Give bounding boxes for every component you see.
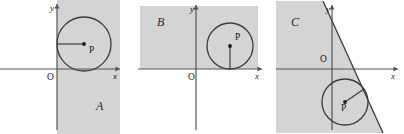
shaded-region-a [57,0,120,134]
region-label-c: C [291,15,300,29]
origin-label-b: O [188,72,195,82]
panel-c-svg: y x O P C [265,0,404,134]
center-label-a: P [89,45,94,55]
x-axis-label-a: x [112,71,117,81]
center-point-a [82,42,86,46]
origin-label-a: O [47,72,54,82]
region-label-a: A [95,99,104,113]
x-axis-label-b: x [254,71,259,81]
diagram-panel-a: y x O P A [0,0,135,134]
x-axis-label-c: x [390,71,395,81]
panel-a-svg: y x O P A [0,0,135,134]
diagram-panel-b: y x O P B [135,0,265,134]
region-label-b: B [157,15,165,29]
center-label-c: P [341,103,346,113]
y-axis-label-a: y [49,3,54,13]
figure-canvas: y x O P A y x O P B [0,0,404,134]
diagram-panel-c: y x O P C [265,0,404,134]
panel-b-svg: y x O P B [135,0,265,134]
y-axis-label-c: y [325,4,330,14]
y-axis-label-b: y [189,4,194,14]
y-axis-arrowhead-c [329,5,334,10]
center-point-b [228,44,232,48]
center-label-b: P [235,32,240,42]
origin-label-c: O [320,54,327,64]
